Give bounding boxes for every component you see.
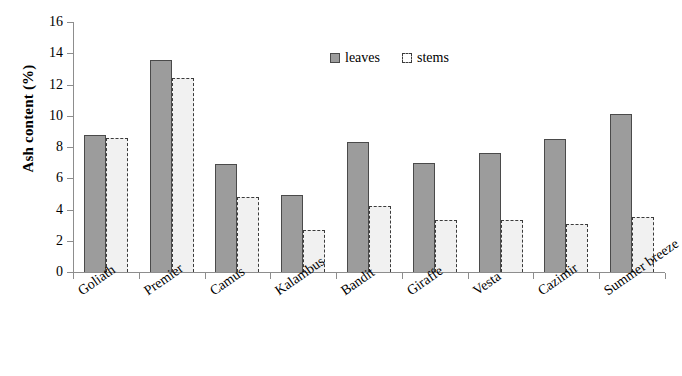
y-axis-tick-label: 0 [15,265,63,279]
bar-stems [369,206,391,272]
bar-leaves [215,164,237,272]
bar-group [413,22,457,272]
x-axis-tick [139,273,140,279]
x-axis-tick [665,273,666,279]
bar-leaves [281,195,303,272]
y-axis-line [73,22,74,273]
bar-stems [106,138,128,272]
bar-stems [172,78,194,272]
x-axis-tick [533,273,534,279]
bar-group [281,22,325,272]
y-axis-tick-label: 10 [15,109,63,123]
bar-group [150,22,194,272]
y-axis-tick [67,85,73,86]
y-axis-tick-label: 4 [15,203,63,217]
bar-group [84,22,128,272]
y-axis-tick [67,241,73,242]
x-axis-tick [468,273,469,279]
bar-group [215,22,259,272]
y-axis-tick [67,53,73,54]
y-axis-tick [67,147,73,148]
bar-leaves [479,153,501,272]
bar-leaves [347,142,369,272]
bar-group [610,22,654,272]
y-axis-tick [67,210,73,211]
bar-leaves [544,139,566,272]
bar-group [347,22,391,272]
y-axis-tick [67,22,73,23]
bar-leaves [150,60,172,273]
y-axis-tick-label: 14 [15,46,63,60]
bar-stems [237,197,259,272]
y-axis-tick [67,116,73,117]
y-axis-tick [67,178,73,179]
plot-area: 0246810121416GoliathPremierCamusKalambus… [73,22,665,272]
bar-stems [501,220,523,272]
bar-group [544,22,588,272]
y-axis-tick-label: 16 [15,15,63,29]
y-axis-tick-label: 6 [15,171,63,185]
bar-leaves [84,135,106,273]
y-axis-tick-label: 8 [15,140,63,154]
x-axis-tick [599,273,600,279]
x-axis-label: Vesta [470,269,504,300]
bar-leaves [413,163,435,272]
x-axis-tick [402,273,403,279]
x-axis-tick [73,273,74,279]
x-axis-tick [205,273,206,279]
y-axis-tick-label: 2 [15,234,63,248]
x-axis-tick [336,273,337,279]
bar-leaves [610,114,632,272]
bar-group [479,22,523,272]
y-axis-tick-label: 12 [15,78,63,92]
x-axis-tick [270,273,271,279]
